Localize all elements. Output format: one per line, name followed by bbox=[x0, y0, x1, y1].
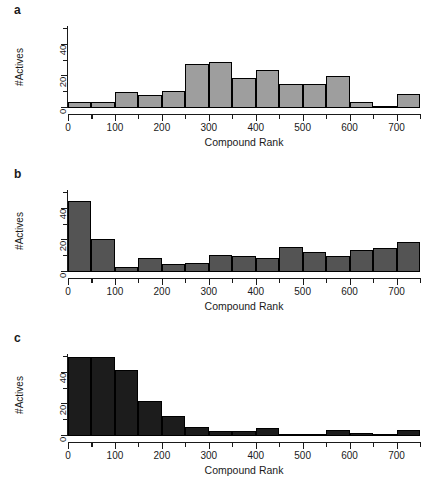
histogram-bar bbox=[91, 102, 114, 108]
x-axis-tick-label: 300 bbox=[200, 287, 217, 297]
x-axis-tick-label: 200 bbox=[154, 123, 171, 133]
histogram-bar bbox=[162, 91, 185, 108]
x-axis-tick-label: 400 bbox=[247, 123, 264, 133]
x-axis-tick-label: 300 bbox=[200, 451, 217, 461]
y-axis-b: 02040 bbox=[60, 190, 68, 272]
x-axis-minor-tick bbox=[138, 442, 139, 447]
histogram-bar bbox=[232, 431, 255, 436]
histogram-bar bbox=[138, 95, 161, 108]
y-axis-tick-label: 40 bbox=[58, 209, 68, 220]
histogram-bar bbox=[326, 256, 349, 272]
x-axis-c: 0100200300400500600700 bbox=[68, 442, 420, 452]
y-axis-title-c: #Actives bbox=[12, 354, 26, 436]
histogram-bar bbox=[397, 242, 420, 272]
x-axis-minor-tick bbox=[373, 114, 374, 119]
bars-b bbox=[68, 190, 420, 272]
histogram-bar bbox=[91, 239, 114, 272]
panel-a: a #Actives 02040 0100200300400500600700 … bbox=[0, 0, 440, 164]
x-axis-tick-label: 600 bbox=[341, 451, 358, 461]
x-axis-minor-tick bbox=[326, 442, 327, 447]
y-axis-tick-label: 20 bbox=[58, 77, 68, 88]
x-axis-major-tick bbox=[350, 114, 351, 121]
x-axis-minor-tick bbox=[232, 278, 233, 283]
y-axis-title-a: #Actives bbox=[12, 26, 26, 108]
x-axis-spine-a bbox=[68, 114, 420, 115]
x-axis-major-tick bbox=[256, 442, 257, 449]
histogram-bar bbox=[185, 64, 208, 108]
x-axis-minor-tick bbox=[91, 442, 92, 447]
histogram-bar bbox=[232, 256, 255, 272]
histogram-bar bbox=[279, 247, 302, 272]
x-axis-major-tick bbox=[209, 278, 210, 285]
histogram-bar bbox=[350, 102, 373, 108]
y-axis-tick-label: 40 bbox=[58, 45, 68, 56]
x-axis-minor-tick bbox=[185, 114, 186, 119]
histogram-bar bbox=[232, 78, 255, 108]
x-axis-minor-tick bbox=[326, 114, 327, 119]
x-axis-major-tick bbox=[303, 114, 304, 121]
x-axis-major-tick bbox=[68, 114, 69, 121]
y-axis-title-c-text: #Actives bbox=[14, 376, 25, 414]
bars-c bbox=[68, 354, 420, 436]
histogram-bar bbox=[256, 70, 279, 108]
panel-label-a: a bbox=[14, 4, 21, 16]
x-axis-minor-tick bbox=[91, 278, 92, 283]
x-axis-tick-label: 0 bbox=[65, 451, 71, 461]
x-axis-major-tick bbox=[162, 114, 163, 121]
x-axis-major-tick bbox=[303, 278, 304, 285]
plot-area-a bbox=[68, 26, 420, 108]
panel-label-b: b bbox=[14, 168, 21, 180]
x-axis-major-tick bbox=[350, 442, 351, 449]
plot-area-c bbox=[68, 354, 420, 436]
x-axis-tick-label: 400 bbox=[247, 451, 264, 461]
x-axis-minor-tick bbox=[279, 278, 280, 283]
histogram-bar bbox=[303, 434, 326, 436]
y-axis-c: 02040 bbox=[60, 354, 68, 436]
y-axis-title-b: #Actives bbox=[12, 190, 26, 272]
y-axis-tick-label: 40 bbox=[58, 373, 68, 384]
x-axis-title-c: Compound Rank bbox=[68, 464, 420, 476]
histogram-bar bbox=[68, 102, 91, 108]
histogram-bar bbox=[350, 250, 373, 272]
x-axis-title-a: Compound Rank bbox=[68, 136, 420, 148]
histogram-bar bbox=[185, 427, 208, 436]
y-axis-tick-label: 0 bbox=[58, 108, 68, 113]
x-axis-major-tick bbox=[397, 442, 398, 449]
x-axis-major-tick bbox=[115, 442, 116, 449]
histogram-bar bbox=[397, 94, 420, 108]
x-axis-minor-tick bbox=[420, 114, 421, 119]
histogram-bar bbox=[373, 434, 396, 436]
y-axis-title-b-text: #Actives bbox=[14, 212, 25, 250]
x-axis-major-tick bbox=[209, 442, 210, 449]
x-axis-minor-tick bbox=[185, 442, 186, 447]
x-axis-major-tick bbox=[397, 114, 398, 121]
x-axis-tick-label: 200 bbox=[154, 287, 171, 297]
x-axis-minor-tick bbox=[232, 442, 233, 447]
histogram-bar bbox=[162, 264, 185, 272]
y-axis-tick-label: 0 bbox=[58, 436, 68, 441]
histogram-bar bbox=[138, 401, 161, 436]
x-axis-major-tick bbox=[303, 442, 304, 449]
histogram-bar bbox=[209, 431, 232, 436]
histogram-bar bbox=[326, 430, 349, 436]
histogram-bar bbox=[68, 201, 91, 272]
x-axis-major-tick bbox=[162, 442, 163, 449]
histogram-bar bbox=[303, 84, 326, 108]
y-axis-tick-label: 0 bbox=[58, 272, 68, 277]
x-axis-tick-label: 100 bbox=[107, 287, 124, 297]
histogram-bar bbox=[279, 434, 302, 436]
x-axis-tick-label: 0 bbox=[65, 287, 71, 297]
x-axis-tick-label: 600 bbox=[341, 123, 358, 133]
histogram-bar bbox=[209, 255, 232, 272]
x-axis-minor-tick bbox=[420, 278, 421, 283]
histogram-bar bbox=[115, 92, 138, 108]
histogram-bar bbox=[115, 267, 138, 272]
x-axis-minor-tick bbox=[279, 442, 280, 447]
x-axis-spine-b bbox=[68, 278, 420, 279]
x-axis-major-tick bbox=[68, 442, 69, 449]
histogram-bar bbox=[185, 263, 208, 272]
panel-c: c #Actives 02040 0100200300400500600700 … bbox=[0, 328, 440, 492]
x-axis-tick-label: 0 bbox=[65, 123, 71, 133]
histogram-bar bbox=[326, 76, 349, 108]
x-axis-minor-tick bbox=[373, 278, 374, 283]
